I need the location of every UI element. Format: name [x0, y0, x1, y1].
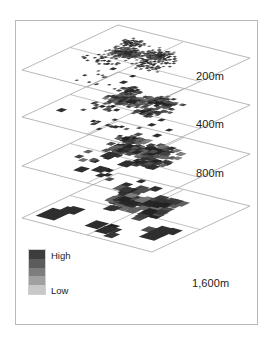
density-cell — [139, 68, 144, 70]
legend-high-label: High — [51, 250, 71, 261]
density-cell-outlier — [119, 81, 129, 84]
density-cell — [104, 177, 115, 181]
density-cell — [172, 56, 177, 58]
layer-label-400m: 400m — [196, 118, 224, 130]
density-cell — [159, 63, 164, 65]
density-cell — [99, 56, 104, 58]
legend-low-label: Low — [51, 285, 68, 296]
density-cell — [170, 98, 177, 101]
density-cell-outlier — [152, 134, 163, 138]
density-cell — [103, 50, 108, 52]
density-cell — [148, 60, 153, 62]
density-cell — [96, 128, 103, 131]
density-cell-outlier — [109, 67, 117, 70]
density-cell — [102, 54, 107, 56]
density-cell — [116, 89, 123, 92]
density-cell — [172, 63, 177, 65]
density-cell — [83, 150, 94, 154]
density-cell — [168, 66, 173, 68]
density-cell — [110, 63, 115, 65]
density-cell — [142, 43, 147, 45]
density-cell — [112, 88, 117, 90]
density-cell — [92, 57, 97, 59]
density-cell — [150, 49, 155, 51]
density-cell — [100, 74, 105, 76]
density-cell-outlier — [106, 60, 112, 62]
density-cell — [176, 152, 187, 156]
legend-swatch-0 — [29, 250, 45, 259]
legend-swatch-2 — [29, 268, 45, 277]
layer-label-800m: 800m — [196, 167, 224, 179]
density-cell — [137, 46, 142, 48]
density-cell — [157, 47, 162, 49]
density-cell — [123, 128, 130, 131]
cell-group-400 — [56, 86, 187, 137]
legend-swatch-4 — [29, 285, 45, 294]
density-cell — [106, 142, 117, 146]
density-cell — [96, 54, 101, 56]
density-cell — [147, 70, 152, 72]
density-cell — [161, 66, 166, 68]
density-cell — [96, 59, 101, 61]
density-cell-outlier — [165, 128, 174, 131]
legend-colorbar — [28, 249, 46, 295]
density-cell — [99, 105, 106, 108]
density-cell-outlier — [73, 166, 90, 172]
density-cell — [134, 59, 139, 61]
figure-container: 200m 400m 800m 1,600m High Low — [0, 0, 278, 341]
density-cell-outlier — [147, 123, 157, 127]
density-cell — [123, 60, 128, 62]
density-cell — [147, 45, 152, 47]
layer-label-1600m: 1,600m — [192, 277, 229, 289]
density-cell — [134, 67, 139, 69]
density-cell-outlier — [56, 108, 67, 112]
density-cell — [111, 119, 118, 122]
density-cell — [97, 63, 102, 65]
density-cell — [145, 67, 150, 69]
density-cell — [87, 81, 92, 83]
density-cell — [96, 70, 101, 72]
density-cell-outlier — [82, 74, 88, 76]
density-cell — [74, 79, 79, 81]
density-cell — [172, 51, 177, 53]
density-cell — [80, 108, 87, 111]
density-cell-outlier — [157, 118, 166, 121]
density-cell — [134, 62, 139, 64]
density-cell-outlier — [113, 109, 121, 112]
density-cell-outlier — [95, 173, 107, 177]
density-cell — [107, 49, 112, 51]
density-cells — [36, 37, 190, 240]
density-cell — [107, 84, 112, 86]
density-cell — [85, 60, 90, 62]
density-cell — [74, 155, 85, 159]
density-cell-outlier — [147, 186, 163, 192]
density-cell — [78, 158, 89, 162]
legend-swatch-1 — [29, 259, 45, 268]
density-cell — [96, 74, 101, 76]
layer-label-200m: 200m — [196, 70, 224, 82]
density-cell — [131, 37, 136, 39]
density-cell — [155, 71, 160, 73]
cell-group-200 — [74, 37, 178, 92]
cell-group-800 — [73, 132, 187, 191]
density-cell — [152, 61, 157, 63]
density-cell — [85, 55, 90, 57]
legend-swatch-3 — [29, 276, 45, 285]
